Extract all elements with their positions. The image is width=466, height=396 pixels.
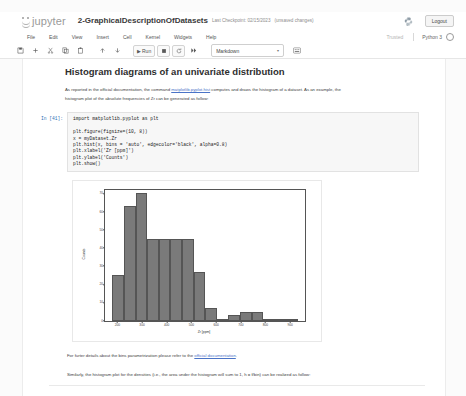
menu-kernel[interactable]: Kernel <box>139 32 167 42</box>
python-kernel-icon <box>404 17 413 26</box>
move-cell-up-icon[interactable] <box>96 45 109 57</box>
menubar-right-group: Trusted Python 3 <box>386 33 454 41</box>
code-body-lines: plt.figure(figsize=(10, 8)) x = myDatase… <box>73 129 227 166</box>
chevron-down-icon: ▾ <box>277 48 279 53</box>
histogram-bar <box>205 308 217 321</box>
last-checkpoint-label: Last Checkpoint: 02/15/2023 <box>212 16 271 26</box>
move-cell-down-icon[interactable] <box>111 45 124 57</box>
intro-text-a: As reported in the official documentatio… <box>65 87 171 92</box>
histogram-figure: Counts 010203040506070 20030040050060070… <box>72 180 322 342</box>
histogram-bar <box>252 312 264 321</box>
x-tick-mark <box>290 321 291 323</box>
histogram-bar <box>136 193 148 320</box>
official-documentation-link[interactable]: official documentation <box>194 353 235 358</box>
x-tick-mark <box>117 321 118 323</box>
notebook-title[interactable]: 2-GraphicalDescriptionOfDatasets <box>78 16 208 26</box>
menu-insert[interactable]: Insert <box>89 32 116 42</box>
run-label: Run <box>142 48 151 54</box>
x-tick-mark <box>142 321 143 323</box>
bins-note-text-b: . <box>236 353 237 358</box>
bins-note-paragraph: For furter details about the bins parame… <box>67 352 419 359</box>
menu-help[interactable]: Help <box>199 32 223 42</box>
menu-edit[interactable]: Edit <box>42 32 65 42</box>
paste-cell-icon[interactable] <box>74 45 87 57</box>
cell-divider <box>49 385 425 386</box>
code-cell-prompt: In [41]: <box>27 112 67 171</box>
matplotlib-hist-link[interactable]: matplotlib.pyplot.hist <box>171 87 210 92</box>
kernel-idle-indicator-icon <box>446 33 454 41</box>
command-palette-icon[interactable] <box>293 47 301 55</box>
jupyter-logo-text: jupyter <box>32 16 66 27</box>
play-icon: ▶ <box>137 48 141 54</box>
histogram-bar <box>240 312 252 321</box>
y-tick-mark <box>103 248 105 249</box>
histogram-bar <box>170 239 182 321</box>
menubar-divider <box>413 33 414 41</box>
histogram-bar <box>147 239 159 321</box>
markdown-cell-intro[interactable]: Histogram diagrams of an univariate dist… <box>23 59 445 102</box>
y-tick-mark <box>103 266 105 267</box>
x-tick-mark <box>241 321 242 323</box>
intro-paragraph-line-1: As reported in the official documentatio… <box>65 86 421 93</box>
histogram-bar <box>194 272 206 321</box>
x-tick-mark <box>216 321 217 323</box>
y-tick-mark <box>103 284 105 285</box>
histogram-bar <box>112 275 124 320</box>
x-tick-mark <box>191 321 192 323</box>
x-tick-mark <box>265 321 266 323</box>
y-tick-mark <box>103 320 105 321</box>
histogram-bar <box>124 206 136 321</box>
intro-paragraph-line-2: histogram plot of the absolute frequenci… <box>65 95 421 102</box>
logout-button[interactable]: Logout <box>425 15 454 27</box>
restart-kernel-icon[interactable] <box>172 45 185 57</box>
cell-type-select[interactable]: Markdown ▾ <box>211 44 284 57</box>
bins-note-text-a: For furter details about the bins parame… <box>67 353 194 358</box>
y-axis-label: Counts <box>82 249 86 260</box>
menu-file[interactable]: File <box>20 32 42 42</box>
y-tick-mark <box>103 229 105 230</box>
menu-widgets[interactable]: Widgets <box>167 32 199 42</box>
code-editor[interactable]: import matplotlib.pyplot as plt plt.figu… <box>67 112 419 171</box>
histogram-bar <box>275 319 287 321</box>
interrupt-kernel-icon[interactable] <box>157 45 170 57</box>
menu-view[interactable]: View <box>65 32 90 42</box>
jupyter-notebook-window: jupyter 2-GraphicalDescriptionOfDatasets… <box>0 0 466 396</box>
menu-items: File Edit View Insert Cell Kernel Widget… <box>20 32 223 42</box>
y-axis-label-holder: Counts <box>87 189 97 320</box>
kernel-name-label: Python 3 <box>422 34 442 40</box>
unsaved-changes-label: (unsaved changes) <box>274 16 313 26</box>
histogram-bar <box>182 239 194 321</box>
code-cell[interactable]: In [41]: import matplotlib.pyplot as plt… <box>23 112 445 171</box>
page-title: Histogram diagrams of an univariate dist… <box>65 66 421 78</box>
densities-paragraph: Similarly, the histogram plot for the de… <box>67 371 419 378</box>
y-tick-mark <box>103 211 105 212</box>
jupyter-logo[interactable]: jupyter <box>22 16 66 27</box>
header-right-group: Logout <box>404 15 454 27</box>
run-cell-button[interactable]: ▶ Run <box>133 45 155 57</box>
y-tick-mark <box>103 302 105 303</box>
notebook-header: jupyter 2-GraphicalDescriptionOfDatasets… <box>0 12 466 31</box>
copy-cell-icon[interactable] <box>59 45 72 57</box>
insert-cell-below-icon[interactable] <box>29 45 42 57</box>
x-tick-mark <box>166 321 167 323</box>
notebook-toolbar: ▶ Run Markdown ▾ <box>0 43 466 59</box>
toolbar-buttons: ▶ Run Markdown ▾ <box>14 44 301 57</box>
plot-area: 010203040506070 200300400500600700800900 <box>104 189 306 322</box>
trusted-indicator[interactable]: Trusted <box>386 34 403 40</box>
menu-cell[interactable]: Cell <box>116 32 139 42</box>
code-cell-output: Counts 010203040506070 20030040050060070… <box>23 172 445 342</box>
restart-and-run-all-icon[interactable] <box>187 45 200 57</box>
intro-text-b: computes and draws the histogram of a da… <box>210 87 341 92</box>
histogram-bar <box>159 239 171 321</box>
y-tick-mark <box>103 193 105 194</box>
histogram-bars <box>105 190 305 321</box>
jupyter-logo-icon <box>22 17 30 27</box>
menu-bar: File Edit View Insert Cell Kernel Widget… <box>0 30 466 44</box>
code-import-line: import matplotlib.pyplot as plt <box>73 116 158 121</box>
cell-type-value: Markdown <box>216 48 239 54</box>
cut-cell-icon[interactable] <box>44 45 57 57</box>
notebook-canvas: Histogram diagrams of an univariate dist… <box>22 59 446 396</box>
markdown-cell-after-figure[interactable]: For furter details about the bins parame… <box>23 342 445 378</box>
save-icon[interactable] <box>14 45 27 57</box>
x-axis-label: Zr [ppm] <box>104 330 304 334</box>
